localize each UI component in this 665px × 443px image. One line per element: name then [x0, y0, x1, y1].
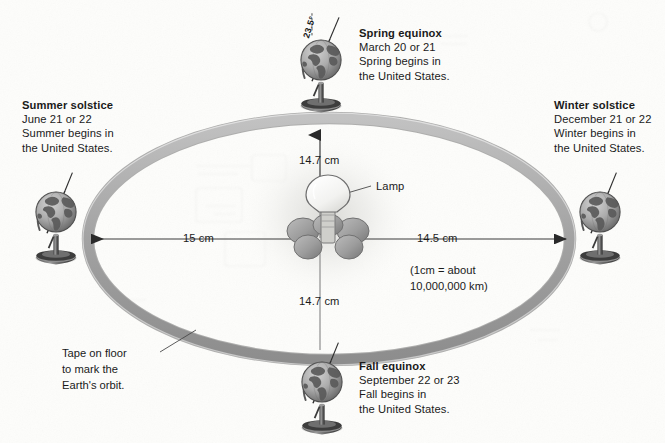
winter-solstice-heading: Winter solstice	[554, 98, 651, 112]
spring-equinox-line3: Spring begins in	[359, 54, 450, 68]
spring-equinox-line4: the United States.	[359, 69, 450, 83]
lamp-socket	[321, 208, 335, 243]
tape-note-line1: Tape on floor	[62, 345, 127, 361]
tape-note-line2: to mark the	[62, 361, 127, 377]
measure-bottom-label: 14.7 cm	[299, 295, 340, 307]
spring-equinox-heading: Spring equinox	[359, 26, 450, 40]
label-fall-equinox: Fall equinox September 22 or 23 Fall beg…	[359, 359, 460, 416]
measure-left-label: 15 cm	[183, 232, 214, 244]
winter-solstice-date: December 21 or 22	[554, 112, 651, 126]
measure-top-label: 14.7 cm	[299, 154, 340, 166]
fall-equinox-date: September 22 or 23	[359, 373, 460, 387]
spring-equinox-date: March 20 or 21	[359, 40, 450, 54]
globe-summer-solstice	[36, 173, 77, 265]
summer-solstice-line3: Summer begins in	[22, 126, 114, 140]
winter-solstice-line3: Winter begins in	[554, 126, 651, 140]
summer-solstice-heading: Summer solstice	[22, 98, 114, 112]
label-spring-equinox: Spring equinox March 20 or 21 Spring beg…	[359, 26, 450, 83]
summer-solstice-date: June 21 or 22	[22, 112, 114, 126]
globe-winter-solstice	[580, 173, 621, 265]
scale-note-line1: (1cm = about	[410, 262, 488, 278]
label-winter-solstice: Winter solstice December 21 or 22 Winter…	[554, 98, 651, 155]
measure-right-label: 14.5 cm	[417, 232, 458, 244]
diagram-canvas: Spring equinox March 20 or 21 Spring beg…	[0, 0, 665, 443]
tape-note: Tape on floor to mark the Earth's orbit.	[62, 345, 127, 393]
label-summer-solstice: Summer solstice June 21 or 22 Summer beg…	[22, 98, 114, 155]
lamp-bulb	[306, 175, 350, 212]
fall-equinox-line4: the United States.	[359, 402, 460, 416]
scale-note: (1cm = about 10,000,000 km)	[410, 262, 488, 294]
tape-note-line3: Earth's orbit.	[62, 377, 127, 393]
lamp-label: Lamp	[376, 180, 404, 192]
fall-equinox-line3: Fall begins in	[359, 387, 460, 401]
winter-solstice-line4: the United States.	[554, 141, 651, 155]
fall-equinox-heading: Fall equinox	[359, 359, 460, 373]
summer-solstice-line4: the United States.	[22, 141, 114, 155]
scale-note-line2: 10,000,000 km)	[410, 278, 488, 294]
